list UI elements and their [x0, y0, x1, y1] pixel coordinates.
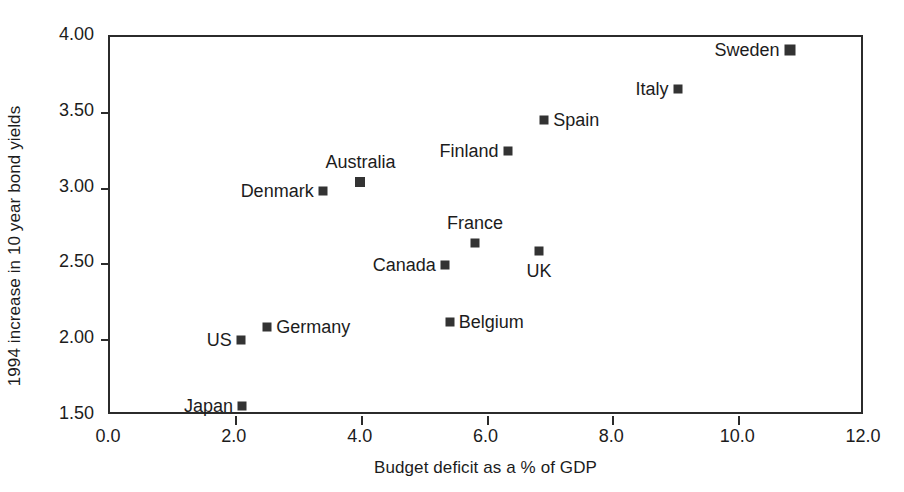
- x-tick-label: 10.0: [707, 426, 767, 447]
- data-point-label: Belgium: [459, 313, 524, 331]
- data-marker[interactable]: [263, 322, 272, 331]
- x-tick-label: 8.0: [581, 426, 641, 447]
- y-tick-mark: [101, 112, 110, 114]
- data-point-label: Canada: [373, 256, 436, 274]
- x-axis-title: Budget deficit as a % of GDP: [108, 458, 863, 478]
- plot-area: JapanUSGermanyDenmarkAustraliaBelgiumCan…: [108, 35, 863, 414]
- x-tick-mark: [738, 416, 740, 425]
- data-marker[interactable]: [673, 85, 682, 94]
- data-point-label: UK: [527, 262, 552, 280]
- data-point-label: Denmark: [241, 182, 314, 200]
- data-marker[interactable]: [440, 261, 449, 270]
- y-tick-mark: [101, 188, 110, 190]
- x-tick-mark: [487, 416, 489, 425]
- data-marker[interactable]: [470, 239, 479, 248]
- data-point-label: Australia: [325, 153, 395, 171]
- data-point-label: Sweden: [714, 41, 779, 59]
- data-point-label: Italy: [635, 80, 668, 98]
- data-marker[interactable]: [238, 402, 247, 411]
- data-marker[interactable]: [445, 318, 454, 327]
- y-tick-label: 3.00: [59, 176, 94, 197]
- y-tick-mark: [101, 263, 110, 265]
- x-tick-label: 0.0: [78, 426, 138, 447]
- data-marker[interactable]: [503, 146, 512, 155]
- x-tick-label: 6.0: [456, 426, 516, 447]
- data-point-label: Germany: [276, 318, 350, 336]
- x-tick-label: 2.0: [204, 426, 264, 447]
- x-tick-mark: [361, 416, 363, 425]
- data-point-label: Spain: [553, 111, 599, 129]
- y-tick-label: 2.50: [59, 251, 94, 272]
- data-marker[interactable]: [535, 246, 544, 255]
- data-point-label: Finland: [440, 142, 499, 160]
- data-point-label: Japan: [184, 397, 233, 415]
- data-marker[interactable]: [236, 336, 245, 345]
- y-axis-title: 1994 increase in 10 year bond yields: [0, 0, 30, 492]
- scatter-chart-figure: 1994 increase in 10 year bond yields 1.5…: [0, 0, 904, 492]
- x-tick-label: 4.0: [330, 426, 390, 447]
- data-marker[interactable]: [318, 186, 327, 195]
- data-marker[interactable]: [784, 44, 795, 55]
- y-tick-label: 4.00: [59, 24, 94, 45]
- x-tick-mark: [612, 416, 614, 425]
- y-tick-label: 1.50: [59, 403, 94, 424]
- x-tick-mark: [235, 416, 237, 425]
- data-point-label: US: [207, 331, 232, 349]
- y-tick-label: 2.00: [59, 327, 94, 348]
- y-tick-mark: [101, 339, 110, 341]
- data-marker[interactable]: [355, 177, 365, 187]
- data-marker[interactable]: [540, 115, 549, 124]
- data-point-label: France: [447, 214, 503, 232]
- x-tick-label: 12.0: [833, 426, 893, 447]
- y-tick-label: 3.50: [59, 100, 94, 121]
